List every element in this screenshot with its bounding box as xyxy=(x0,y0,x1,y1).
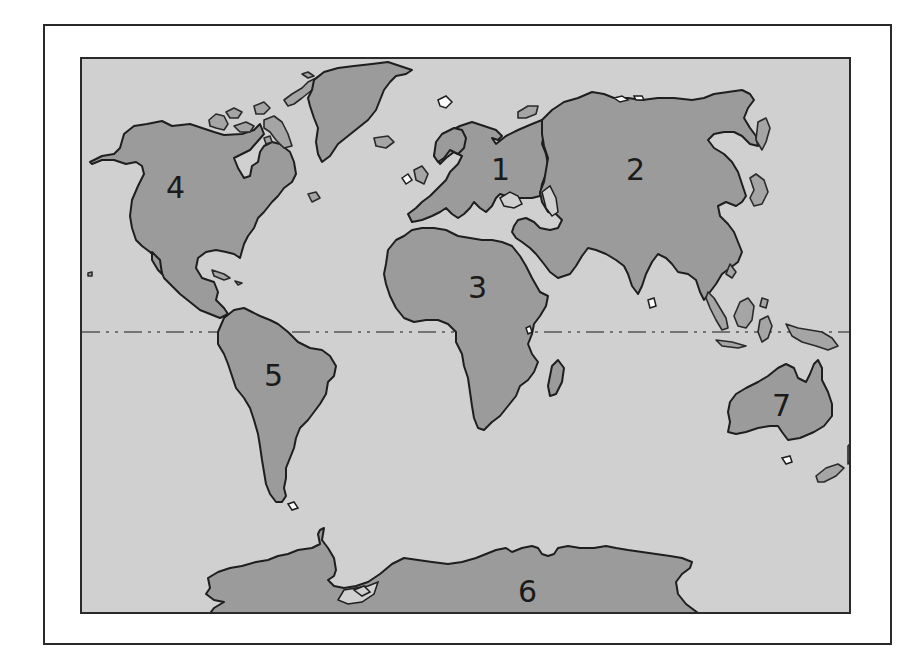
label-south-america: 5 xyxy=(264,361,283,391)
label-north-america: 4 xyxy=(166,173,185,203)
world-map: 1 2 3 4 5 6 7 xyxy=(80,57,851,614)
continent-north-america[interactable] xyxy=(90,72,322,318)
label-antarctica: 6 xyxy=(518,577,537,607)
label-africa: 3 xyxy=(468,273,487,303)
continent-antarctica[interactable] xyxy=(206,528,702,614)
greenland[interactable] xyxy=(308,62,412,162)
label-asia: 2 xyxy=(626,155,645,185)
map-canvas xyxy=(82,59,851,614)
continent-asia[interactable] xyxy=(512,90,838,350)
island xyxy=(88,272,92,276)
continent-europe[interactable] xyxy=(402,96,548,222)
continent-africa[interactable] xyxy=(384,228,564,430)
label-australia: 7 xyxy=(772,391,791,421)
continent-south-america[interactable] xyxy=(218,308,336,510)
label-europe: 1 xyxy=(491,155,510,185)
